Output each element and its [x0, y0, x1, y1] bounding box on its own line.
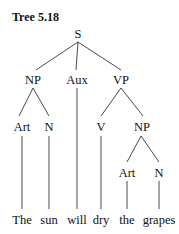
- edge-np2-n: [141, 136, 159, 162]
- word-the: The: [12, 214, 31, 227]
- node-v: V: [96, 121, 105, 134]
- word-will: will: [67, 214, 86, 227]
- edge-np-art: [19, 88, 33, 116]
- edge-s-vp: [78, 42, 121, 70]
- word-grapes: grapes: [143, 214, 176, 227]
- node-s: S: [75, 28, 82, 41]
- node-np-object: NP: [134, 121, 150, 134]
- node-np: NP: [25, 74, 41, 87]
- node-n-object: N: [154, 167, 163, 180]
- node-aux: Aux: [66, 74, 88, 87]
- word-sun: sun: [40, 214, 57, 227]
- node-art-object: Art: [119, 167, 136, 180]
- edge-vp-np: [121, 88, 143, 116]
- edge-np-n: [33, 88, 49, 116]
- word-the-2: the: [119, 214, 134, 227]
- node-n: N: [44, 121, 53, 134]
- edge-np2-art: [127, 136, 141, 162]
- edge-s-aux: [76, 42, 78, 70]
- node-art: Art: [14, 121, 31, 134]
- edge-s-np: [36, 42, 78, 70]
- word-dry: dry: [93, 214, 110, 227]
- edge-vp-v: [101, 88, 121, 116]
- node-vp: VP: [113, 74, 129, 87]
- tree-edges: [0, 0, 179, 234]
